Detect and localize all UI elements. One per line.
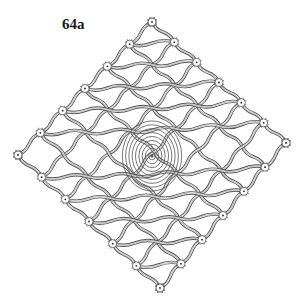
pinhole-dot [84, 88, 86, 90]
pinhole-dot [201, 239, 203, 241]
pinhole-dot [173, 41, 175, 43]
pinhole-dot [151, 21, 153, 23]
pinhole-dot [41, 176, 43, 178]
spider-center [151, 155, 154, 158]
pinhole-dot [112, 243, 114, 245]
pinhole-dot [263, 122, 265, 124]
pinhole-dot [264, 166, 266, 168]
pinhole-dot [243, 190, 245, 192]
pinhole-dot [222, 215, 224, 217]
pinhole-dot [64, 198, 66, 200]
pinhole-dot [62, 110, 64, 112]
pinhole-dot [135, 265, 137, 267]
pinhole-dot [285, 142, 287, 144]
pinhole-dot [17, 154, 19, 156]
lace-diagram-figure: 64a [0, 0, 304, 299]
figure-label: 64a [62, 16, 85, 33]
pinhole-dot [218, 82, 220, 84]
pinhole-dot [240, 102, 242, 104]
pinhole-dot [129, 43, 131, 45]
thread-pair-outline [65, 190, 244, 201]
pinhole-dot [39, 132, 41, 134]
pinhole-dot [159, 287, 161, 289]
pinhole-dot [196, 61, 198, 63]
lace-pattern-drawing [0, 0, 304, 299]
pinhole-dot [88, 221, 90, 223]
pinhole-dot [106, 65, 108, 67]
pinhole-dot [180, 263, 182, 265]
